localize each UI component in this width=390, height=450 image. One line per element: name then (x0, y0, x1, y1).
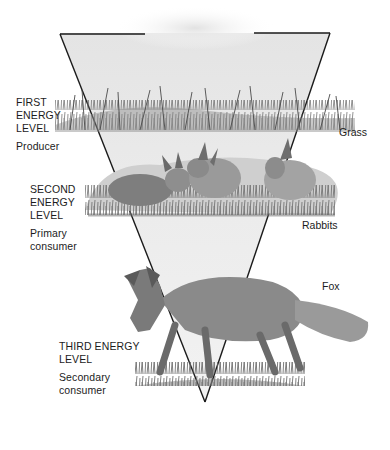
first-level-title-3: LEVEL (16, 122, 61, 135)
label-fox: Fox (322, 280, 340, 292)
label-second-energy-level: SECOND ENERGY LEVEL Primary consumer (30, 183, 77, 253)
third-level-title-1: THIRD ENERGY (59, 340, 140, 353)
second-level-title-1: SECOND (30, 183, 77, 196)
label-first-energy-level: FIRST ENERGY LEVEL Producer (16, 96, 61, 153)
second-level-role-2: consumer (30, 240, 77, 253)
second-level-role-1: Primary (30, 227, 77, 240)
third-level-role-2: consumer (59, 384, 140, 397)
second-level-title-3: LEVEL (30, 209, 77, 222)
label-grass: Grass (339, 126, 367, 138)
second-level-title-2: ENERGY (30, 196, 77, 209)
energy-pyramid-diagram: FIRST ENERGY LEVEL Producer SECOND ENERG… (0, 0, 390, 450)
first-level-title-2: ENERGY (16, 109, 61, 122)
first-level-role: Producer (16, 140, 61, 153)
third-level-role-1: Secondary (59, 371, 140, 384)
third-level-title-2: LEVEL (59, 353, 140, 366)
label-third-energy-level: THIRD ENERGY LEVEL Secondary consumer (59, 340, 140, 397)
first-level-title-1: FIRST (16, 96, 61, 109)
label-rabbits: Rabbits (302, 219, 338, 231)
